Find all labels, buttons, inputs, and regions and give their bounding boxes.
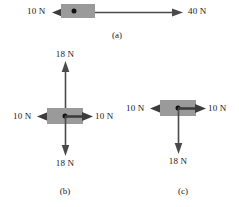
panel-c-caption: (c) [178,186,188,196]
panel-b-force-down-label: 18 N [56,158,75,168]
panel-a-force-left-label: 10 N [27,6,46,16]
panel-a-caption: (a) [112,30,122,40]
panel-b-caption: (b) [60,186,71,196]
panel-c-arrow-down [173,108,184,154]
panel-c-force-right-label: 10 N [208,103,227,113]
panel-a-force-right-label: 40 N [188,6,207,16]
panel-b-force-left-label: 10 N [13,111,32,121]
panel-b-force-right-label: 10 N [95,111,114,121]
panel-a-block [61,4,95,18]
panel-b-arrow-up [60,61,71,111]
force-diagram-figure: 10 N 40 N (a) 18 N 10 N [0,0,239,207]
panel-b-arrow-down [60,116,71,156]
panel-a-center-dot [72,9,77,14]
panel-a-arrow-right [95,7,183,18]
panel-c-force-left-label: 10 N [126,103,145,113]
panel-c-force-down-label: 18 N [169,156,188,166]
panel-b-force-up-label: 18 N [56,49,75,59]
